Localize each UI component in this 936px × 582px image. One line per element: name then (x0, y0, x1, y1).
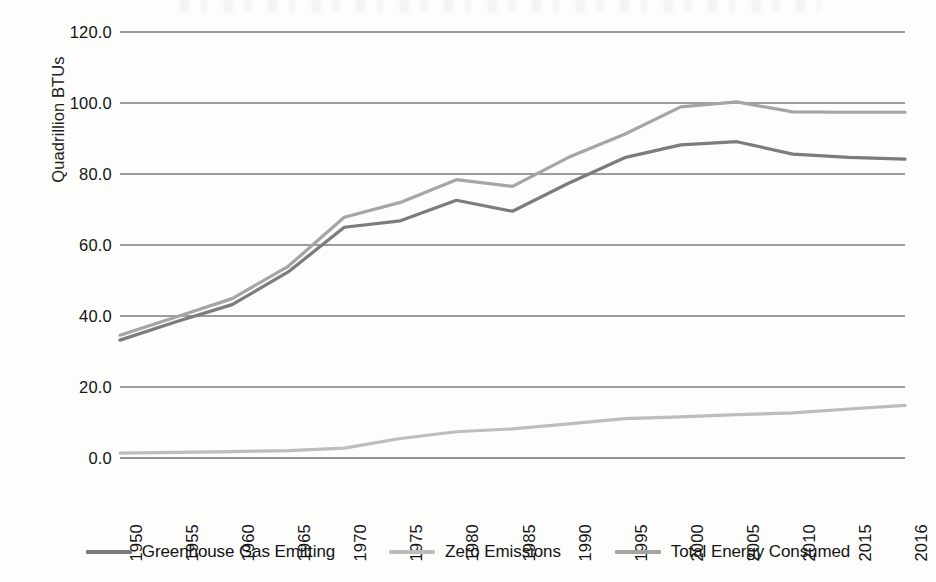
x-axis-tick-labels: 1950195519601965197019751980198519901995… (120, 462, 905, 528)
chart-legend: Greenhouse Gas EmittingZero EmissionsTot… (0, 542, 936, 562)
legend-swatch-icon (615, 550, 661, 553)
y-tick-label: 80.0 (4, 165, 112, 184)
legend-label: Zero Emissions (445, 542, 561, 562)
legend-label: Greenhouse Gas Emitting (142, 542, 335, 562)
plot-area (120, 32, 905, 458)
series-layer (120, 32, 905, 458)
y-tick-label: 100.0 (4, 94, 112, 113)
y-tick-label: 120.0 (4, 23, 112, 42)
series-line (120, 142, 905, 340)
legend-item[interactable]: Greenhouse Gas Emitting (86, 542, 335, 562)
legend-item[interactable]: Total Energy Consumed (615, 542, 850, 562)
y-tick-label: 60.0 (4, 236, 112, 255)
legend-swatch-icon (389, 550, 435, 553)
y-tick-label: 20.0 (4, 378, 112, 397)
scan-artifact (180, 0, 820, 12)
y-tick-label: 40.0 (4, 307, 112, 326)
y-axis-tick-labels: 0.020.040.060.080.0100.0120.0 (0, 0, 112, 470)
series-line (120, 405, 905, 453)
legend-swatch-icon (86, 550, 132, 553)
y-tick-label: 0.0 (4, 449, 112, 468)
line-chart: Quadrillion BTUs 0.020.040.060.080.0100.… (0, 0, 936, 582)
legend-label: Total Energy Consumed (671, 542, 850, 562)
legend-item[interactable]: Zero Emissions (389, 542, 561, 562)
